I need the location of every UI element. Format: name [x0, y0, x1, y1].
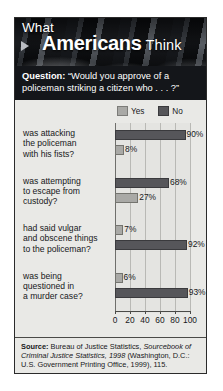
what-americans-think-figure: What AmericansThink Question: “Would you…	[14, 17, 207, 374]
category-label-line: the policeman	[23, 138, 113, 148]
x-tick-label-60: 60	[155, 315, 164, 325]
category-label-line: custody?	[23, 196, 113, 206]
bar-value-label: 7%	[124, 225, 136, 234]
bar-no	[115, 240, 187, 250]
category-label-line: to escape from	[23, 186, 113, 196]
x-axis-line	[115, 311, 190, 312]
chart-area: Yes No was attackingthe policemanwith hi…	[15, 100, 206, 341]
bar-value-label: 93%	[189, 288, 206, 297]
bar-no	[115, 178, 169, 188]
x-tick-20	[130, 311, 131, 314]
masthead-word-think: Think	[146, 37, 182, 53]
bar-value-label: 68%	[170, 178, 187, 187]
bar-value-label: 6%	[124, 273, 136, 282]
x-tick-80	[175, 311, 176, 314]
question-label: Question:	[22, 71, 65, 81]
legend-label-yes: Yes	[131, 107, 144, 116]
category-label-line: had said vulgar	[23, 223, 113, 233]
question-band: Question: “Would you approve of a police…	[15, 66, 206, 100]
x-tick-label-0: 0	[113, 315, 118, 325]
masthead: What AmericansThink	[15, 18, 206, 66]
gridline-100	[190, 123, 191, 313]
legend-item-yes: Yes	[117, 106, 144, 116]
category-label-line: questioned in	[23, 281, 113, 291]
bar-yes	[115, 145, 124, 155]
category-label-line: and obscene things	[23, 233, 113, 243]
category-label: was beingquestioned ina murder case?	[23, 271, 113, 302]
legend-item-no: No	[158, 106, 182, 116]
bar-value-label: 90%	[187, 130, 204, 139]
x-tick-label-100: 100	[183, 315, 197, 325]
chart-legend: Yes No	[15, 100, 206, 120]
x-tick-label-40: 40	[140, 315, 149, 325]
category-label: was attemptingto escape fromcustody?	[23, 176, 113, 207]
category-label-line: with his fists?	[23, 149, 113, 159]
category-label-line: was attempting	[23, 176, 113, 186]
bar-yes	[115, 193, 138, 203]
plot-grid: 90%8%68%27%7%92%6%93%	[115, 123, 190, 313]
bar-no	[115, 130, 186, 140]
gridline-60	[160, 123, 161, 313]
category-labels-column: was attackingthe policemanwith his fists…	[21, 123, 113, 313]
category-label-line: a murder case?	[23, 291, 113, 301]
source-label: Source:	[21, 342, 49, 351]
bar-value-label: 8%	[125, 145, 137, 154]
gridline-40	[145, 123, 146, 313]
x-tick-60	[160, 311, 161, 314]
category-label: had said vulgarand obscene thingsto the …	[23, 223, 113, 254]
category-label-line: to the policeman?	[23, 244, 113, 254]
masthead-title: What AmericansThink	[22, 21, 202, 53]
x-axis: 020406080100	[115, 311, 190, 327]
category-label-line: was attacking	[23, 128, 113, 138]
legend-swatch-no	[158, 106, 169, 116]
bar-yes	[115, 225, 123, 235]
x-tick-0	[115, 311, 116, 314]
bar-yes	[115, 273, 123, 283]
plot-region: was attackingthe policemanwith his fists…	[21, 123, 200, 335]
bar-value-label: 92%	[188, 240, 205, 249]
x-tick-label-80: 80	[170, 315, 179, 325]
masthead-line-two: AmericansThink	[22, 33, 202, 53]
bar-no	[115, 288, 188, 298]
legend-swatch-yes	[117, 106, 128, 116]
category-label-line: was being	[23, 271, 113, 281]
legend-label-no: No	[172, 107, 182, 116]
x-tick-label-20: 20	[125, 315, 134, 325]
source-part1: Bureau of Justice Statistics,	[49, 342, 144, 351]
category-label: was attackingthe policemanwith his fists…	[23, 128, 113, 159]
x-tick-100	[190, 311, 191, 314]
gridline-80	[175, 123, 176, 313]
bar-value-label: 27%	[139, 193, 156, 202]
source-note: Source: Bureau of Justice Statistics, So…	[15, 337, 206, 373]
x-tick-40	[145, 311, 146, 314]
masthead-word-americans: Americans	[42, 32, 142, 54]
